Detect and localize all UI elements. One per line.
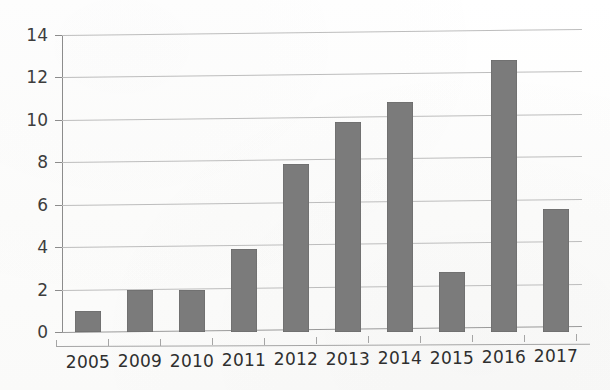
y-axis-label-12: 12 <box>0 67 48 87</box>
y-tick-8 <box>55 162 62 163</box>
x-tick-10 <box>576 334 577 341</box>
y-axis-label-0: 0 <box>0 322 48 342</box>
bar-2009 <box>127 290 153 332</box>
bar-chart: 02468101214 2005200920102011201220132014… <box>0 0 610 390</box>
gridline-14 <box>62 29 582 36</box>
x-axis-label-2005: 2005 <box>62 352 114 372</box>
x-tick-2 <box>160 339 161 346</box>
x-tick-8 <box>472 335 473 342</box>
y-axis-label-4: 4 <box>0 237 48 257</box>
y-axis-label-14: 14 <box>0 25 48 45</box>
y-axis-label-8: 8 <box>0 152 48 172</box>
y-axis-label-6: 6 <box>0 195 48 215</box>
y-tick-0 <box>55 332 62 333</box>
x-axis-label-2013: 2013 <box>322 349 374 369</box>
x-axis-label-2012: 2012 <box>270 349 322 369</box>
bar-2011 <box>231 249 257 332</box>
x-tick-9 <box>524 335 525 342</box>
x-tick-5 <box>316 337 317 344</box>
y-tick-10 <box>55 120 62 121</box>
y-tick-12 <box>55 77 62 78</box>
x-axis-label-2014: 2014 <box>374 348 426 368</box>
y-tick-6 <box>55 205 62 206</box>
bar-2015 <box>439 272 465 332</box>
bar-2005 <box>75 311 101 332</box>
x-tick-6 <box>368 336 369 343</box>
x-tick-1 <box>108 339 109 346</box>
y-axis-label-10: 10 <box>0 110 48 130</box>
x-axis-label-2011: 2011 <box>218 350 270 370</box>
x-axis-label-2017: 2017 <box>530 346 582 366</box>
x-tick-0 <box>56 340 57 347</box>
y-tick-14 <box>55 35 62 36</box>
x-axis-label-2010: 2010 <box>166 351 218 371</box>
x-tick-4 <box>264 338 265 345</box>
x-axis-label-2016: 2016 <box>478 347 530 367</box>
y-tick-4 <box>55 247 62 248</box>
bar-2016 <box>491 60 517 332</box>
bar-2010 <box>179 290 205 332</box>
x-tick-7 <box>420 336 421 343</box>
x-tick-3 <box>212 338 213 345</box>
bar-2012 <box>283 164 309 332</box>
bar-2017 <box>543 209 569 332</box>
bar-2013 <box>335 122 361 332</box>
plot-area <box>62 35 582 332</box>
y-tick-2 <box>55 290 62 291</box>
x-axis-label-2009: 2009 <box>114 351 166 371</box>
y-axis-label-2: 2 <box>0 280 48 300</box>
x-axis-label-2015: 2015 <box>426 348 478 368</box>
bar-2014 <box>387 102 413 332</box>
